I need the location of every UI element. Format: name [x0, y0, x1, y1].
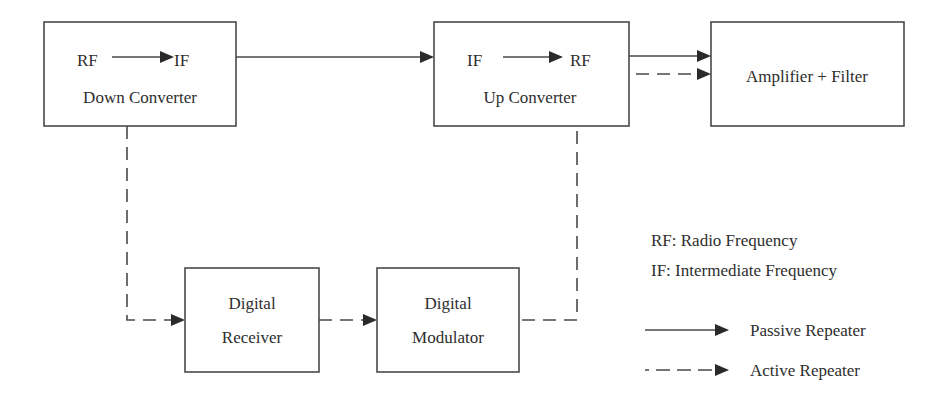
legend-abbrev-rf: RF: Radio Frequency [651, 231, 798, 250]
up-converter-block: IF RF Up Converter [434, 22, 629, 126]
legend-abbrev-if: IF: Intermediate Frequency [651, 261, 837, 280]
legend-solid-arrow-icon [645, 324, 729, 336]
legend-passive-repeater-label: Passive Repeater [750, 321, 866, 340]
digital-modulator-block: Digital Modulator [377, 268, 519, 372]
digital-modulator-line2: Modulator [412, 328, 484, 347]
legend-dashed-arrow-icon [645, 364, 729, 376]
down-converter-box [44, 22, 236, 126]
connector-down-to-up-solid [236, 51, 434, 63]
digital-modulator-line1: Digital [424, 294, 471, 313]
digital-receiver-line2: Receiver [222, 328, 283, 347]
down-converter-title: Down Converter [83, 88, 197, 107]
digital-receiver-line1: Digital [228, 294, 275, 313]
connector-down-to-receiver-dashed [127, 126, 185, 326]
connector-up-to-amplifier-dashed [636, 68, 711, 80]
digital-receiver-box [185, 268, 319, 372]
digital-receiver-block: Digital Receiver [185, 268, 319, 372]
up-converter-box [434, 22, 629, 126]
up-converter-to-label: RF [570, 51, 591, 70]
down-converter-block: RF IF Down Converter [44, 22, 236, 126]
up-converter-from-label: IF [467, 51, 482, 70]
up-converter-title: Up Converter [483, 88, 576, 107]
connector-up-to-amplifier-solid [629, 50, 711, 62]
digital-modulator-box [377, 268, 519, 372]
legend-active-repeater-label: Active Repeater [750, 361, 860, 380]
amplifier-filter-block: Amplifier + Filter [711, 22, 904, 126]
repeater-block-diagram: RF IF Down Converter IF RF Up Converter … [0, 0, 947, 408]
down-converter-from-label: RF [77, 51, 98, 70]
down-converter-to-label: IF [174, 51, 189, 70]
amplifier-filter-title: Amplifier + Filter [746, 67, 868, 86]
connector-modulator-to-up-dashed [522, 126, 577, 320]
connector-receiver-to-modulator-dashed [319, 314, 377, 326]
legend: RF: Radio Frequency IF: Intermediate Fre… [645, 231, 866, 380]
